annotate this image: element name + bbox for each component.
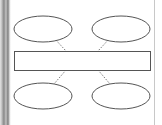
ellipse-top-right[interactable] [92, 16, 150, 42]
connector-center-bottom-right [98, 70, 110, 84]
connector-center-bottom-left [54, 70, 66, 84]
diagram-canvas [0, 0, 162, 125]
ellipse-bottom-left[interactable] [14, 83, 72, 109]
ellipse-bottom-right[interactable] [92, 83, 150, 109]
ellipse-top-left[interactable] [14, 16, 72, 42]
center-rectangle[interactable] [15, 52, 151, 71]
